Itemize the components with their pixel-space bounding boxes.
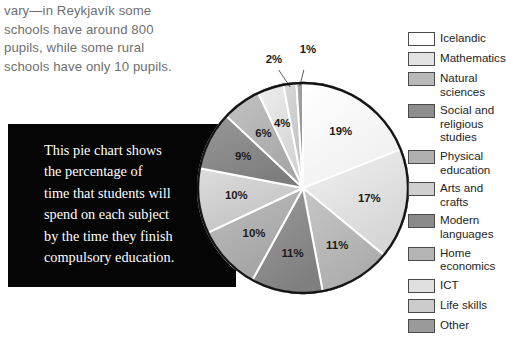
legend-label: Other: [440, 318, 469, 332]
pie-slice-label: 9%: [235, 150, 251, 162]
legend-swatch: [408, 32, 435, 46]
legend-swatch: [408, 279, 435, 293]
legend-label: Homeeconomics: [440, 246, 495, 273]
pie-slice-label: 17%: [358, 192, 381, 204]
legend-swatch: [408, 182, 435, 196]
legend-item[interactable]: Physicaleducation: [408, 149, 499, 176]
legend-item[interactable]: Social andreligiousstudies: [408, 103, 499, 144]
legend-item[interactable]: Arts andcrafts: [408, 181, 499, 208]
legend-swatch: [408, 104, 435, 118]
legend-label: Modernlanguages: [440, 213, 494, 240]
legend-swatch: [408, 319, 435, 333]
pie-slice-label: 19%: [329, 125, 352, 137]
body-paragraph: vary—in Reykjavík someschools have aroun…: [4, 2, 214, 76]
pie-slice-label: 1%: [300, 43, 316, 55]
pie-slice-label: 10%: [225, 189, 248, 201]
pie-slice-label: 11%: [281, 247, 303, 259]
legend-item[interactable]: Life skills: [408, 298, 499, 313]
legend-label: Arts andcrafts: [440, 181, 483, 208]
body-line: schools have around 800: [4, 21, 214, 40]
legend-item[interactable]: ICT: [408, 278, 499, 293]
pie-slice-label: 10%: [243, 227, 266, 239]
pie-chart: 19%17%11%11%10%10%9%6%4%2%1%: [190, 70, 420, 310]
legend-label: Life skills: [440, 298, 487, 312]
legend-item[interactable]: Icelandic: [408, 31, 499, 46]
body-line: schools have only 10 pupils.: [4, 58, 214, 77]
legend-item[interactable]: Mathematics: [408, 51, 499, 66]
legend-swatch: [408, 247, 435, 261]
legend-label: Physicaleducation: [440, 149, 490, 176]
legend-swatch: [408, 72, 435, 86]
legend-swatch: [408, 214, 435, 228]
legend-label: Mathematics: [440, 51, 506, 65]
legend-item[interactable]: Modernlanguages: [408, 213, 499, 240]
legend-swatch: [408, 150, 435, 164]
pie-slice-label: 11%: [326, 239, 348, 251]
pie-slice-label: 6%: [255, 127, 271, 139]
legend-item[interactable]: Homeeconomics: [408, 246, 499, 273]
chart-legend: IcelandicMathematicsNaturalsciencesSocia…: [408, 31, 499, 337]
legend-label: ICT: [440, 278, 459, 292]
legend-item[interactable]: Other: [408, 318, 499, 333]
legend-swatch: [408, 52, 435, 66]
pie-slice-label: 4%: [274, 117, 290, 129]
legend-item[interactable]: Naturalsciences: [408, 71, 499, 98]
legend-swatch: [408, 299, 435, 313]
pie-slice-label: 2%: [266, 53, 282, 65]
body-line: vary—in Reykjavík some: [4, 2, 214, 21]
legend-label: Icelandic: [440, 31, 486, 45]
legend-label: Naturalsciences: [440, 71, 485, 98]
body-line: pupils, while some rural: [4, 39, 214, 58]
legend-label: Social andreligiousstudies: [440, 103, 494, 144]
